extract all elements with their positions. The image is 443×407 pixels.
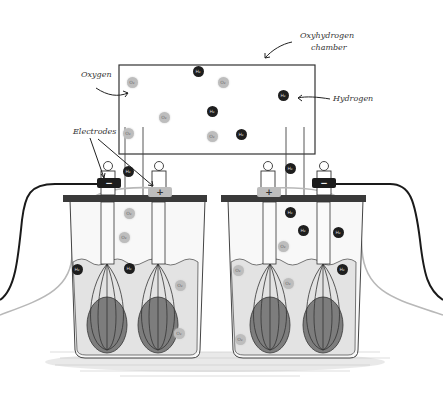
label-chamber-line2: chamber [311,43,347,52]
oxygen-molecule-icon: O₂ [124,208,135,219]
oxygen-molecule-icon: O₂ [233,265,244,276]
hydrogen-molecule-icon: H₂ [285,163,296,174]
hydrogen-molecule-icon: H₂ [278,90,289,101]
oxygen-molecule-icon: O₂ [127,77,138,88]
hydrogen-molecule-icon: H₂ [337,264,348,275]
oxygen-molecule-icon: O₂ [119,232,130,243]
diagram-drawing [0,0,443,407]
label-oxygen: Oxygen [81,70,112,79]
positive-terminal-left: + [148,187,172,197]
hydrogen-molecule-icon: H₂ [193,66,204,77]
oxygen-molecule-icon: O₂ [235,334,246,345]
hydrogen-molecule-icon: H₂ [285,207,296,218]
oxygen-molecule-icon: O₂ [218,77,229,88]
oxygen-molecule-icon: O₂ [123,128,134,139]
oxygen-molecule-icon: O₂ [278,241,289,252]
oxygen-molecule-icon: O₂ [175,280,186,291]
label-hydrogen: Hydrogen [333,94,373,103]
label-electrodes: Electrodes [73,127,116,136]
hydrogen-molecule-icon: H₂ [333,227,344,238]
negative-terminal-left: − [97,178,121,188]
electrode-arrow-1 [90,138,104,178]
hydrogen-molecule-icon: H₂ [124,263,135,274]
oxygen-molecule-icon: O₂ [159,112,170,123]
oxygen-molecule-icon: O₂ [174,328,185,339]
hydrogen-molecule-icon: H₂ [123,166,134,177]
chamber-arrow [265,42,292,58]
electrode-tops [101,162,331,196]
oxygen-molecule-icon: O₂ [207,131,218,142]
hydrogen-molecule-icon: H₂ [298,225,309,236]
electrolysis-diagram: − + + − Oxyhydrogen chamber Oxygen Hydro… [0,0,443,407]
left-tank [63,195,207,358]
hydrogen-molecule-icon: H₂ [72,264,83,275]
hydrogen-molecule-icon: H₂ [207,106,218,117]
positive-terminal-right: + [257,187,281,197]
label-chamber-line1: Oxyhydrogen [300,31,354,40]
oxygen-molecule-icon: O₂ [283,278,294,289]
negative-terminal-right: − [312,178,336,188]
hydrogen-molecule-icon: H₂ [236,129,247,140]
